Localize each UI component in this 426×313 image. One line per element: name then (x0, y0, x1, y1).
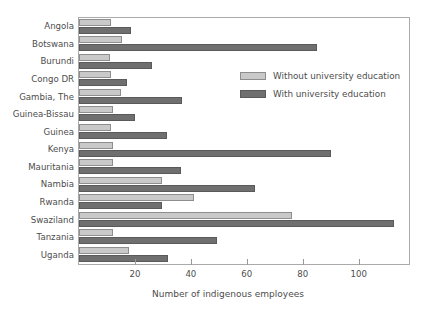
bar-without-university-education (79, 124, 111, 131)
tick-mark (303, 259, 304, 265)
bar-without-university-education (79, 19, 111, 26)
legend: Without university educationWith univers… (240, 68, 408, 104)
bar-group (79, 106, 409, 124)
tick-mark (135, 259, 136, 265)
legend-item: With university education (240, 86, 408, 101)
bar-group (79, 159, 409, 177)
category-label: Guinea (0, 127, 74, 137)
category-axis-labels: AngolaBotswanaBurundiCongo DRGambia, The… (0, 18, 74, 264)
bar-group (79, 229, 409, 247)
category-label: Congo DR (0, 74, 74, 84)
bar-with-university-education (79, 185, 255, 192)
bars-layer (79, 18, 409, 264)
bar-with-university-education (79, 220, 394, 227)
category-label: Gambia, The (0, 92, 74, 102)
tick-mark (247, 259, 248, 265)
category-label: Mauritania (0, 162, 74, 172)
category-label: Swaziland (0, 215, 74, 225)
bar-with-university-education (79, 114, 135, 121)
tick-mark (359, 259, 360, 265)
category-label: Guinea-Bissau (0, 109, 74, 119)
bar-without-university-education (79, 194, 194, 201)
bar-without-university-education (79, 106, 113, 113)
bar-with-university-education (79, 79, 127, 86)
category-label: Rwanda (0, 197, 74, 207)
legend-item: Without university education (240, 68, 408, 83)
category-label: Tanzania (0, 232, 74, 242)
bar-with-university-education (79, 27, 131, 34)
tick-mark (191, 259, 192, 265)
bar-without-university-education (79, 247, 129, 254)
bar-with-university-education (79, 150, 331, 157)
bar-chart-figure: AngolaBotswanaBurundiCongo DRGambia, The… (0, 0, 426, 313)
bar-without-university-education (79, 159, 113, 166)
value-axis-ticks: 20406080100 (0, 265, 426, 285)
bar-without-university-education (79, 71, 111, 78)
bar-without-university-education (79, 54, 110, 61)
category-label: Uganda (0, 250, 74, 260)
bar-with-university-education (79, 167, 181, 174)
bar-without-university-education (79, 36, 122, 43)
bar-group (79, 141, 409, 159)
legend-label: Without university education (273, 71, 400, 81)
legend-swatch-light (240, 72, 266, 80)
bar-group (79, 18, 409, 36)
category-label: Nambia (0, 179, 74, 189)
tick-label: 40 (185, 269, 196, 279)
tick-label: 20 (129, 269, 140, 279)
category-label: Kenya (0, 144, 74, 154)
category-label: Botswana (0, 39, 74, 49)
category-label: Burundi (0, 56, 74, 66)
bar-without-university-education (79, 142, 113, 149)
bar-group (79, 194, 409, 212)
bar-with-university-education (79, 237, 217, 244)
tick-label: 100 (350, 269, 366, 279)
bar-with-university-education (79, 202, 162, 209)
bar-group (79, 123, 409, 141)
bar-without-university-education (79, 229, 113, 236)
bar-group (79, 176, 409, 194)
x-axis-title-text: Number of indigenous employees (152, 289, 304, 299)
x-axis-title: Number of indigenous employees (0, 289, 426, 299)
tick-label: 80 (297, 269, 308, 279)
bar-group (79, 36, 409, 54)
bar-without-university-education (79, 89, 121, 96)
category-label: Angola (0, 21, 74, 31)
tick-label: 60 (241, 269, 252, 279)
bar-with-university-education (79, 44, 317, 51)
bar-group (79, 211, 409, 229)
bar-with-university-education (79, 255, 168, 262)
bar-without-university-education (79, 212, 292, 219)
bar-with-university-education (79, 97, 182, 104)
legend-swatch-dark (240, 90, 266, 98)
bar-with-university-education (79, 132, 167, 139)
legend-label: With university education (273, 89, 386, 99)
bar-without-university-education (79, 177, 162, 184)
bar-with-university-education (79, 62, 152, 69)
